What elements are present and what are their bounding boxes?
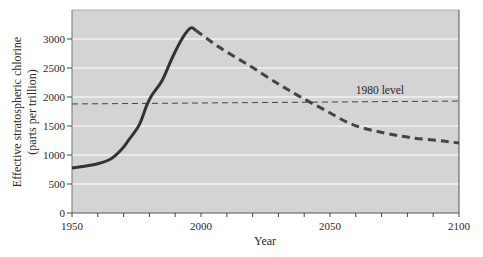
plot-area xyxy=(72,10,459,213)
y-tick-label: 1500 xyxy=(43,120,66,132)
x-axis-ticks: 1950200020502100 xyxy=(61,213,471,232)
y-axis-ticks: 050010001500200025003000 xyxy=(43,33,72,219)
y-tick-label: 2500 xyxy=(43,62,66,74)
x-axis-title: Year xyxy=(254,234,276,248)
y-tick-label: 1000 xyxy=(43,149,66,161)
y-axis-subtitle: (parts per trillion) xyxy=(25,69,39,154)
y-tick-label: 500 xyxy=(49,178,66,190)
y-tick-label: 2000 xyxy=(43,91,66,103)
annotation-1980-level: 1980 level xyxy=(356,84,404,96)
x-tick-label: 2100 xyxy=(448,220,471,232)
y-axis-title: Effective stratospheric chlorine xyxy=(10,37,24,187)
x-tick-label: 2000 xyxy=(190,220,213,232)
x-tick-label: 2050 xyxy=(319,220,342,232)
y-tick-label: 3000 xyxy=(43,33,66,45)
x-tick-label: 1950 xyxy=(61,220,84,232)
y-tick-label: 0 xyxy=(60,207,66,219)
chart: 1950200020502100 05001000150020002500300… xyxy=(0,0,483,257)
